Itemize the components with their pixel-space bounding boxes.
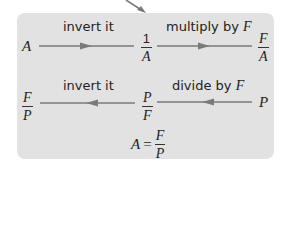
result-equation: A = F P: [131, 128, 165, 161]
equation-lhs: A: [131, 136, 140, 153]
row2-start-variable: P: [259, 94, 268, 111]
result-fraction: F P: [155, 128, 166, 161]
fraction-bar: [155, 144, 166, 145]
equals-sign: =: [143, 136, 151, 153]
fraction-numerator: F: [155, 128, 166, 143]
fraction-denominator: P: [155, 146, 166, 161]
